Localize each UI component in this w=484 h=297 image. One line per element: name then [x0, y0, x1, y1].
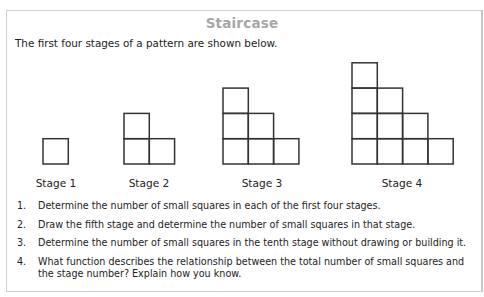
small-square: [428, 139, 453, 164]
small-square: [223, 113, 248, 138]
small-square: [124, 113, 149, 138]
stage-2-label: Stage 2: [129, 177, 170, 189]
small-square: [352, 113, 377, 138]
question-text: Draw the fifth stage and determine the n…: [38, 219, 415, 230]
question-text: Determine the number of small squares in…: [38, 237, 466, 248]
small-square: [223, 88, 248, 113]
small-square: [223, 139, 248, 164]
stage-4-label: Stage 4: [382, 177, 423, 189]
small-square: [248, 113, 273, 138]
small-square: [352, 88, 377, 113]
small-square: [403, 139, 428, 164]
small-square: [149, 139, 174, 164]
small-square: [274, 139, 299, 164]
small-square: [403, 113, 428, 138]
question-item: 2. Draw the fifth stage and determine th…: [17, 219, 477, 231]
question-item: 4. What function describes the relations…: [17, 256, 477, 280]
question-number: 4.: [17, 256, 26, 268]
stage-2-figure: [124, 113, 175, 164]
question-number: 1.: [17, 200, 26, 212]
question-item: 1. Determine the number of small squares…: [17, 200, 477, 212]
small-square: [377, 88, 402, 113]
staircase-figure: [0, 0, 484, 200]
stage-4-figure: [352, 63, 453, 164]
stage-3-label: Stage 3: [242, 177, 283, 189]
small-square: [377, 139, 402, 164]
stage-3-figure: [223, 88, 299, 164]
stage-1-figure: [43, 139, 68, 164]
question-text: What function describes the relationship…: [38, 256, 464, 279]
question-item: 3. Determine the number of small squares…: [17, 237, 477, 249]
small-square: [352, 139, 377, 164]
question-list: 1. Determine the number of small squares…: [17, 200, 477, 286]
small-square: [377, 113, 402, 138]
small-square: [43, 139, 68, 164]
stage-1-label: Stage 1: [36, 177, 77, 189]
small-square: [248, 139, 273, 164]
question-number: 2.: [17, 219, 26, 231]
question-text: Determine the number of small squares in…: [38, 200, 381, 211]
question-number: 3.: [17, 237, 26, 249]
small-square: [124, 139, 149, 164]
small-square: [352, 63, 377, 88]
